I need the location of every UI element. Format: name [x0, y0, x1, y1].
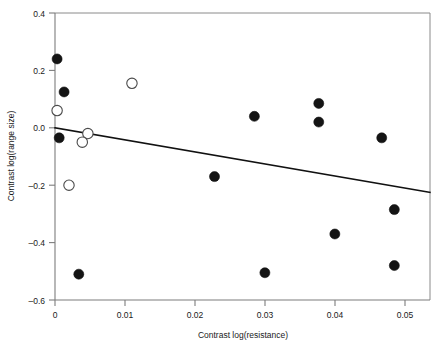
x-tick-label-0: 0	[53, 310, 58, 320]
data-point-open	[127, 78, 137, 88]
x-axis-title: Contrast log(resistance)	[198, 330, 288, 340]
y-tick-label-1: 0.2	[33, 66, 45, 76]
data-point-filled	[389, 261, 399, 271]
data-point-filled	[52, 54, 62, 64]
x-tick-label-2: 0.02	[187, 310, 204, 320]
x-tick-label-5: 0.05	[397, 310, 414, 320]
data-point-filled	[260, 268, 270, 278]
plot-canvas: 0.4 0.2 0.0 –0.2 –0.4 –0.6 0 0.01 0.02 0…	[0, 0, 448, 348]
regression-line	[55, 128, 430, 193]
x-tick-label-1: 0.01	[117, 310, 134, 320]
data-point-filled	[59, 87, 69, 97]
x-axis: 0 0.01 0.02 0.03 0.04 0.05	[53, 300, 430, 320]
y-axis: 0.4 0.2 0.0 –0.2 –0.4 –0.6	[28, 9, 55, 306]
data-point-open	[52, 105, 62, 115]
data-point-filled	[74, 269, 84, 279]
data-point-filled	[210, 172, 220, 182]
x-tick-label-3: 0.03	[257, 310, 274, 320]
data-point-open	[77, 137, 87, 147]
data-point-filled	[330, 229, 340, 239]
data-point-filled	[54, 133, 64, 143]
y-tick-label-2: 0.0	[33, 123, 45, 133]
y-tick-label-0: 0.4	[33, 9, 45, 19]
y-tick-label-5: –0.6	[28, 296, 45, 306]
data-point-filled	[314, 98, 324, 108]
y-tick-label-4: –0.4	[28, 238, 45, 248]
x-tick-label-4: 0.04	[327, 310, 344, 320]
data-points-layer	[52, 54, 399, 279]
plot-frame	[55, 13, 430, 300]
data-point-open	[64, 180, 74, 190]
data-point-filled	[377, 133, 387, 143]
data-point-filled	[249, 111, 259, 121]
y-tick-label-3: –0.2	[28, 181, 45, 191]
scatter-plot-figure: 0.4 0.2 0.0 –0.2 –0.4 –0.6 0 0.01 0.02 0…	[0, 0, 448, 348]
data-point-filled	[314, 117, 324, 127]
data-point-filled	[389, 205, 399, 215]
y-axis-title: Contrast log(range size)	[6, 110, 16, 201]
